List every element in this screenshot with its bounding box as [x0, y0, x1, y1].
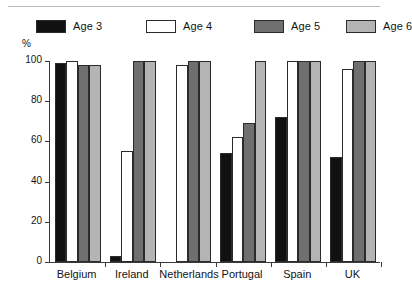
bar-group-spain: [271, 62, 326, 262]
x-axis-tick-mark: [326, 262, 327, 267]
bar-group-uk: [326, 62, 381, 262]
bar-spain-age-3: [275, 117, 287, 262]
y-axis-tick-label: 20: [31, 215, 42, 226]
legend-item-age-6: Age 6: [346, 17, 412, 35]
x-axis-label-uk: UK: [325, 268, 380, 280]
bar-netherlands-age-4: [176, 65, 188, 262]
top-divider: [8, 6, 380, 7]
legend-item-age-3: Age 3: [36, 17, 102, 35]
bar-uk-age-5: [353, 61, 365, 262]
bar-group-portugal: [216, 62, 271, 262]
y-axis-tick-label: 0: [36, 255, 42, 266]
legend-swatch-icon: [346, 20, 376, 33]
bar-netherlands-age-6: [199, 61, 211, 262]
bar-portugal-age-6: [255, 61, 267, 262]
bar-group-bars: [105, 62, 160, 262]
bar-ireland-age-5: [133, 61, 145, 262]
bar-group-bars: [160, 62, 215, 262]
legend-label: Age 5: [291, 20, 320, 32]
plot-frame: 020406080100: [49, 62, 380, 263]
bar-ireland-age-6: [144, 61, 156, 262]
x-axis-label-portugal: Portugal: [215, 268, 270, 280]
legend-item-age-4: Age 4: [146, 17, 212, 35]
x-axis-tick-mark: [271, 262, 272, 267]
bar-ireland-age-4: [121, 151, 133, 262]
bar-group-bars: [271, 62, 326, 262]
x-axis-label-spain: Spain: [270, 268, 325, 280]
bar-spain-age-5: [298, 61, 310, 262]
y-axis-tick-label: 60: [31, 134, 42, 145]
x-axis-label-netherlands: Netherlands: [159, 268, 214, 280]
x-axis-tick-mark: [216, 262, 217, 267]
legend-label: Age 6: [383, 20, 412, 32]
legend-swatch-icon: [36, 20, 66, 33]
bar-belgium-age-3: [55, 63, 67, 262]
bar-portugal-age-5: [243, 123, 255, 262]
x-axis-tick-mark: [381, 262, 382, 267]
bar-uk-age-4: [342, 69, 354, 262]
bar-portugal-age-4: [232, 137, 244, 262]
bar-uk-age-6: [365, 61, 377, 262]
legend-swatch-icon: [254, 20, 284, 33]
bar-group-netherlands: [160, 62, 215, 262]
bar-spain-age-6: [310, 61, 322, 262]
bar-spain-age-4: [287, 61, 299, 262]
legend-label: Age 4: [183, 20, 212, 32]
y-axis-tick-mark: [45, 262, 50, 263]
x-axis-tick-mark: [160, 262, 161, 267]
bar-uk-age-3: [330, 157, 342, 262]
bar-group-belgium: [50, 62, 105, 262]
legend-label: Age 3: [73, 20, 102, 32]
bar-netherlands-age-5: [188, 61, 200, 262]
plot-area: 020406080100: [50, 62, 380, 262]
bar-ireland-age-3: [110, 256, 122, 262]
x-axis-label-ireland: Ireland: [104, 268, 159, 280]
y-axis-unit-label: %: [22, 38, 31, 49]
y-axis-tick-label: 40: [31, 175, 42, 186]
bar-group-bars: [326, 62, 381, 262]
bar-belgium-age-6: [89, 65, 101, 262]
bar-group-bars: [50, 62, 105, 262]
bar-group-ireland: [105, 62, 160, 262]
y-axis-tick-label: 80: [31, 94, 42, 105]
bar-belgium-age-5: [78, 65, 90, 262]
y-axis-tick-label: 100: [25, 54, 42, 65]
bar-portugal-age-3: [220, 153, 232, 262]
legend-item-age-5: Age 5: [254, 17, 320, 35]
bar-group-bars: [216, 62, 271, 262]
x-axis-tick-mark: [105, 262, 106, 267]
bar-belgium-age-4: [66, 61, 78, 262]
x-axis-label-belgium: Belgium: [49, 268, 104, 280]
legend-swatch-icon: [146, 20, 176, 33]
chart-legend: Age 3Age 4Age 5Age 6: [36, 17, 381, 35]
